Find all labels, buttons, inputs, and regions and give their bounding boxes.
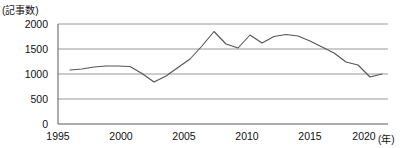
x-tick-label-2000: 2000 (109, 130, 132, 142)
x-tick-label-2015: 2015 (298, 130, 321, 142)
x-tick-label-1995: 1995 (46, 130, 69, 142)
line-chart: (記事数) 2000 1500 1000 500 0 1995 2000 200… (0, 0, 400, 148)
x-axis-unit-label: (年) (378, 131, 395, 146)
x-tick-label-2010: 2010 (235, 130, 258, 142)
x-tick-label-2005: 2005 (172, 130, 195, 142)
x-tick-label-2020: 2020 (352, 130, 375, 142)
gridlines (58, 24, 388, 99)
plot-area (0, 0, 400, 148)
